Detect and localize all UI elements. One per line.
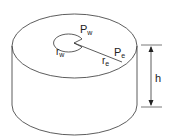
arrow-down-icon — [149, 100, 154, 106]
label-pe: Pe — [114, 46, 125, 59]
cylinder-bottom-edge — [12, 105, 137, 135]
arrow-up-icon — [149, 46, 154, 52]
label-rw: rw — [56, 46, 65, 58]
label-pw: Pw — [80, 23, 93, 36]
label-h: h — [155, 72, 161, 84]
reservoir-diagram: Pw rw Pe re h — [0, 0, 170, 139]
